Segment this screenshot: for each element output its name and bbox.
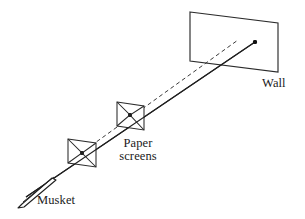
label-paper-screens-line1: Paper — [124, 136, 153, 150]
screen-near-hit-marker-cy — [80, 151, 84, 155]
wall-shape — [190, 12, 278, 72]
label-musket: Musket — [37, 194, 75, 207]
bullet-trajectory-through-screens — [26, 42, 255, 197]
diagram-svg — [0, 0, 305, 219]
figure-canvas: Wall Paperscreens Musket — [0, 0, 305, 219]
label-paper-screens-line2: screens — [114, 150, 162, 163]
label-paper-screens: Paperscreens — [114, 137, 162, 164]
screen-far-hit-marker-cy — [128, 113, 132, 117]
impact-point-dot-cy — [253, 40, 257, 44]
label-wall: Wall — [262, 77, 286, 90]
